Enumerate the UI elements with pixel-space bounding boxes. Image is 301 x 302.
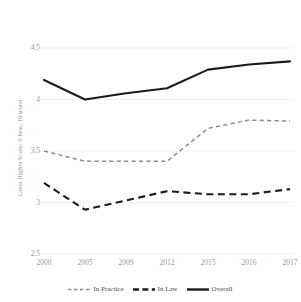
series-line-in-practice [44, 120, 290, 161]
legend-label: In Law [158, 285, 178, 293]
x-axis-tick-label: 2015 [188, 258, 228, 268]
series-line-overall [44, 61, 290, 99]
plot-area [44, 48, 290, 254]
dashed-gray-line-icon [68, 286, 90, 293]
series-line-in-law [44, 183, 290, 210]
chart-legend: In PracticeIn LawOverall [0, 281, 301, 297]
x-axis-tick-labels: 2000200520092012201520162017 [44, 258, 290, 272]
x-axis-tick-label: 2016 [229, 258, 269, 268]
line-chart: Labor Rights Score: 0 best, 10 worst 4.5… [0, 0, 301, 302]
y-axis-tick-label: 3 [14, 199, 40, 207]
x-axis-tick-label: 2012 [147, 258, 187, 268]
solid-black-line-icon [187, 286, 209, 293]
y-axis-tick-label: 4 [14, 96, 40, 104]
x-axis-tick-label: 2017 [270, 258, 301, 268]
gridlines [40, 48, 294, 254]
x-axis-tick-label: 2000 [24, 258, 64, 268]
legend-label: In Practice [93, 285, 123, 293]
y-axis-tick-labels: 4.543.532.5 [14, 0, 40, 302]
legend-item[interactable]: In Practice [68, 285, 123, 293]
y-axis-tick-label: 2.5 [14, 250, 40, 258]
legend-label: Overall [212, 285, 233, 293]
y-axis-tick-label: 4.5 [14, 44, 40, 52]
series-lines [44, 61, 290, 209]
x-axis-tick-label: 2005 [65, 258, 105, 268]
x-axis-tick-label: 2009 [106, 258, 146, 268]
legend-item[interactable]: Overall [187, 285, 233, 293]
plot-svg [44, 48, 290, 254]
y-axis-tick-label: 3.5 [14, 147, 40, 155]
legend-item[interactable]: In Law [133, 285, 178, 293]
dashed-black-line-icon [133, 286, 155, 293]
